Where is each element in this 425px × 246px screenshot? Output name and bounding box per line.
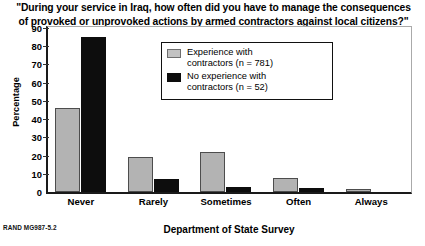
y-axis-tick-label: 40 (16, 114, 42, 125)
x-axis-tick-label-never: Never (67, 196, 94, 207)
x-axis-tick-label-always: Always (355, 196, 388, 207)
legend-swatch-gray (167, 49, 181, 58)
bar-often-series-1 (273, 178, 298, 192)
y-axis-tick-label: 80 (16, 41, 42, 52)
chart-title-line-1: "During your service in Iraq, how often … (16, 2, 411, 13)
bar-never-series-1 (55, 108, 80, 192)
x-axis-title: Department of State Survey (46, 224, 412, 235)
legend-label: No experience with contractors (n = 52) (187, 71, 268, 94)
y-axis-tick-label: 70 (16, 59, 42, 70)
x-axis-tick-labels: NeverRarelySometimesOftenAlways (49, 196, 412, 212)
bar-always-series-1 (346, 189, 371, 192)
legend-label: Experience with contractors (n = 781) (187, 47, 273, 70)
bar-group-always (339, 28, 412, 192)
legend-entry-1: Experience with contractors (n = 781) (167, 47, 326, 70)
y-axis-tick-label: 10 (16, 168, 42, 179)
bar-often-series-2 (299, 188, 324, 192)
y-axis-tick-label: 0 (16, 187, 42, 198)
source-note: RAND MG987-5.2 (3, 224, 57, 231)
bar-rarely-series-2 (154, 179, 179, 192)
legend-swatch-black (167, 73, 181, 82)
x-axis-tick-label-rarely: Rarely (139, 196, 168, 207)
y-axis-tick-label: 50 (16, 95, 42, 106)
bar-never-series-2 (81, 37, 106, 192)
bar-group-never (49, 28, 122, 192)
y-axis-tick-label: 60 (16, 77, 42, 88)
y-axis-tick-label: 30 (16, 132, 42, 143)
bar-sometimes-series-2 (226, 187, 251, 192)
x-axis-tick-label-often: Often (286, 196, 311, 207)
y-axis-tick-labels: 0102030405060708090 (16, 28, 42, 192)
y-axis-tick-label: 20 (16, 150, 42, 161)
legend-entry-2: No experience with contractors (n = 52) (167, 71, 326, 94)
chart-title: "During your service in Iraq, how often … (6, 1, 421, 28)
x-axis-tick-label-sometimes: Sometimes (200, 196, 251, 207)
chart-legend: Experience with contractors (n = 781)No … (161, 42, 333, 100)
y-axis-tick-label: 90 (16, 23, 42, 34)
bar-rarely-series-1 (128, 157, 153, 192)
bar-sometimes-series-1 (200, 152, 225, 192)
